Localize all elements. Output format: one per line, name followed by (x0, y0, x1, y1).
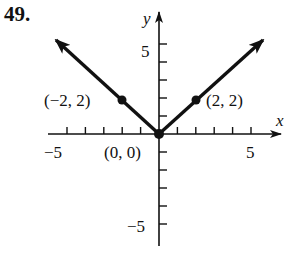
point-label-2-2: (2, 2) (206, 91, 243, 110)
x-axis-label: x (275, 111, 284, 130)
right-ray (159, 40, 263, 134)
point-origin (154, 129, 164, 139)
point-neg2-2 (118, 96, 127, 105)
y-tick-label-neg5: −5 (127, 217, 145, 236)
graph: y x 5 −5 −5 5 (−2, 2) (0, 0) (2, 2) (0, 0, 306, 260)
y-axis-label: y (141, 9, 151, 28)
y-tick-label-5: 5 (141, 42, 150, 61)
x-tick-label-5: 5 (246, 143, 255, 162)
point-2-2 (192, 96, 201, 105)
x-tick-label-neg5: −5 (44, 143, 62, 162)
point-label-origin: (0, 0) (104, 143, 141, 162)
point-label-neg2-2: (−2, 2) (44, 91, 90, 110)
